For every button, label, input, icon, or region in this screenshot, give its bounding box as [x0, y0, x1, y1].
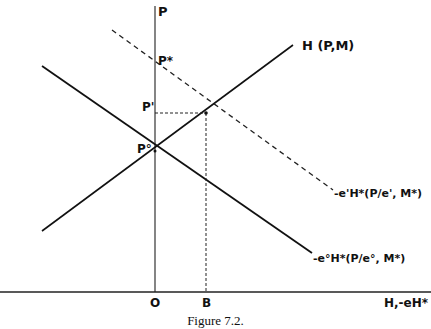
x-axis-label: H,-eH*	[384, 297, 428, 309]
solid-down-curve-line	[42, 66, 312, 253]
b-label: B	[202, 297, 211, 309]
h-curve-label: H (P,M)	[302, 39, 354, 52]
intersection-point	[204, 111, 208, 115]
figure-caption: Figure 7.2.	[0, 313, 431, 329]
p-zero-point	[154, 150, 157, 153]
figure-diagram	[0, 0, 431, 329]
p-zero-label: P°	[137, 143, 152, 155]
solid-down-curve-label: -e°H*(P/e°, M*)	[313, 253, 405, 264]
p-axis-label: P	[158, 5, 168, 18]
dashed-curve-label: -e'H*(P/e', M*)	[334, 188, 422, 199]
origin-label: O	[150, 297, 160, 309]
h-curve-line	[42, 45, 293, 231]
p-prime-label: P'	[142, 101, 154, 113]
p-star-label: P*	[158, 55, 173, 67]
